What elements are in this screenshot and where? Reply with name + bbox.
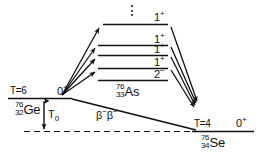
parent-element-symbol: Ge bbox=[24, 103, 41, 116]
q-value-letter: T bbox=[48, 108, 55, 120]
level-jp-1: 2− bbox=[154, 69, 164, 80]
parent-atomic-number: 32 bbox=[15, 109, 23, 117]
intermediate-element-symbol: As bbox=[125, 85, 139, 98]
level-jp-5-parity: + bbox=[160, 9, 164, 18]
level-jp-5: 1+ bbox=[154, 12, 164, 23]
daughter-nucleus-label: 7634Se bbox=[201, 134, 225, 151]
q-value-subscript: 0 bbox=[55, 114, 59, 123]
beta-minus-branch-arrows bbox=[62, 28, 99, 95]
daughter-atomic-number: 34 bbox=[201, 142, 209, 150]
level-jp-4-parity: + bbox=[160, 31, 164, 40]
level-jp-2-parity: + bbox=[160, 54, 164, 63]
double-beta-transition-line bbox=[72, 99, 196, 130]
level-jp-3: 1+ bbox=[154, 44, 164, 55]
level-jp-3-parity: + bbox=[160, 41, 164, 50]
parent-nucleus-label: 7632Ge bbox=[15, 101, 40, 118]
daughter-element-symbol: Se bbox=[210, 136, 225, 149]
q-value-label: T0 bbox=[48, 109, 59, 120]
second-beta-branch-arrows bbox=[171, 27, 197, 107]
parent-isospin-label: T=6 bbox=[10, 86, 27, 96]
level-continuation-dots-icon bbox=[131, 5, 133, 19]
decay-arrow-2 bbox=[171, 70, 194, 107]
parent-jp-parity: + bbox=[63, 83, 67, 92]
daughter-jp-parity: + bbox=[242, 115, 246, 124]
daughter-isospin-label: T=4 bbox=[194, 119, 211, 129]
daughter-nucleus-numbers: 7634 bbox=[201, 134, 209, 151]
parent-ground-state-jp: 0+ bbox=[57, 86, 67, 97]
double-beta-label: β−β− bbox=[96, 110, 117, 121]
beta-parity-2: − bbox=[113, 107, 117, 116]
intermediate-nucleus-numbers: 7633 bbox=[116, 83, 124, 100]
intermediate-atomic-number: 33 bbox=[116, 91, 124, 99]
intermediate-nucleus-label: 7633As bbox=[116, 83, 139, 100]
daughter-ground-state-jp: 0+ bbox=[236, 118, 246, 129]
nuclear-level-scheme-figure: T=6 0+ 7632Ge T0 β−β− 1+ 1+ 1+ 1+ 2− 763… bbox=[0, 0, 261, 161]
level-jp-1-parity: − bbox=[160, 66, 164, 75]
decay-arrow-3 bbox=[171, 57, 195, 105]
parent-nucleus-numbers: 7632 bbox=[15, 101, 23, 118]
